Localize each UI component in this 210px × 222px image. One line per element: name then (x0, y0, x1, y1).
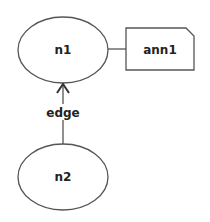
node-n1[interactable]: n1 (18, 17, 108, 83)
edge-label: edge (46, 106, 79, 120)
node-n2[interactable]: n2 (18, 144, 108, 210)
node-n1-label: n1 (55, 43, 72, 57)
node-n2-label: n2 (55, 170, 72, 184)
annotation-ann1-label: ann1 (143, 43, 177, 57)
edge-n2-n1[interactable]: edge (46, 84, 79, 144)
diagram-canvas: n1 ann1 edge n2 (0, 0, 210, 222)
annotation-ann1[interactable]: ann1 (126, 28, 194, 70)
